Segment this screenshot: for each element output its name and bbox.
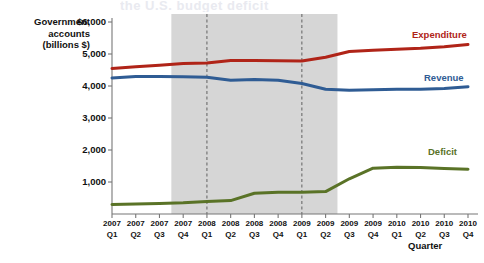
- legend-label-deficit: Deficit: [428, 146, 457, 157]
- legend-label-expenditure: Expenditure: [412, 29, 467, 40]
- legend-label-revenue: Revenue: [424, 72, 464, 83]
- recession-shading: [171, 14, 337, 214]
- chart-figure: the U.S. budget deficit Government accou…: [0, 0, 484, 263]
